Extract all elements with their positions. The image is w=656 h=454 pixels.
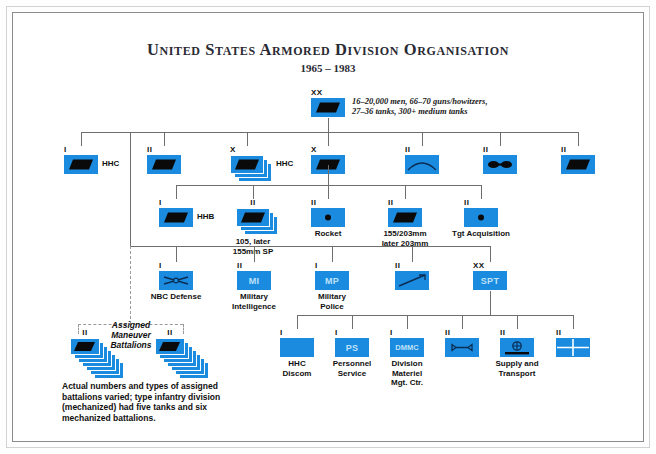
unit-under-label: Military Intelligence — [209, 292, 299, 311]
connector-br-drop-1 — [176, 246, 177, 262]
connector-dc-drop-1 — [297, 315, 298, 329]
connector-artillery-drop — [328, 165, 329, 185]
connector-left-spine — [130, 132, 131, 246]
armor-icon — [230, 155, 264, 174]
armor-icon — [236, 208, 270, 227]
engineer-icon — [405, 155, 439, 174]
connector-dc-drop-6 — [573, 315, 574, 329]
armor-icon — [147, 155, 181, 174]
connector-drop-5 — [422, 132, 423, 146]
connector-br-drop-5 — [490, 246, 491, 262]
connector-left-spine-foot — [130, 246, 176, 247]
echelon-label: II — [70, 329, 100, 337]
connector-drop-7 — [578, 132, 579, 146]
unit-inner-label: DMMC — [390, 338, 424, 357]
connector-branch-bus — [176, 246, 490, 247]
connector-br-drop-3 — [332, 246, 333, 262]
unit-side-label: HHC — [276, 159, 293, 168]
supply-transport-icon — [500, 338, 534, 357]
page-title: United States Armored Division Organisat… — [0, 40, 656, 60]
connector-art-drop-4 — [405, 185, 406, 199]
armor-icon — [388, 208, 422, 227]
unit-side-label: HHC — [102, 159, 119, 168]
connector-dc-drop-2 — [352, 315, 353, 329]
connector-main-bus — [81, 132, 578, 133]
connector-division-drop — [328, 118, 329, 132]
unit-under-label: Tgt Acquisition — [436, 229, 526, 239]
armor-icon — [155, 338, 185, 355]
connector-maneuver-dashed-spine — [130, 246, 131, 324]
connector-art-drop-1 — [176, 185, 177, 199]
wrench-icon — [445, 338, 479, 357]
connector-drop-1 — [81, 132, 82, 146]
connector-dc-drop-4 — [462, 315, 463, 329]
unit-inner-label: MI — [237, 271, 271, 290]
unit-box — [280, 338, 314, 357]
unit-inner-label: SPT — [473, 271, 507, 290]
unit-under-label: Division Materiel Mgt. Ctr. — [362, 359, 452, 388]
armor-icon — [311, 98, 345, 117]
armor-icon — [64, 155, 98, 174]
connector-drop-4 — [328, 132, 329, 146]
armor-icon — [70, 338, 100, 355]
unit-inner-label: MP — [315, 271, 349, 290]
page-subtitle: 1965 – 1983 — [0, 62, 656, 74]
connector-art-drop-2 — [253, 185, 254, 199]
nbc-icon — [159, 271, 193, 290]
aviation-icon — [483, 155, 517, 174]
signal-icon — [395, 271, 429, 290]
armor-icon — [561, 155, 595, 174]
connector-drop-2 — [164, 132, 165, 146]
echelon-label: II — [236, 199, 270, 207]
unit-side-label: HHB — [197, 212, 214, 221]
echelon-label: II — [155, 329, 185, 337]
division-note-line-1: 16–20,000 men, 66–70 guns/howitzers, — [352, 96, 488, 106]
unit-under-label: Supply and Transport — [472, 359, 562, 378]
connector-dc-drop-5 — [517, 315, 518, 329]
unit-under-label: NBC Defense — [131, 292, 221, 302]
medical-cross-icon — [556, 338, 590, 357]
chart-canvas: United States Armored Division Organisat… — [0, 0, 656, 454]
unit-under-label: Military Police — [287, 292, 377, 311]
connector-drop-3 — [247, 132, 248, 146]
connector-br-drop-2 — [254, 246, 255, 262]
division-note-line-2: 27–36 tanks, 300+ medium tanks — [352, 106, 468, 116]
connector-discom-bus — [297, 315, 573, 316]
connector-dc-drop-3 — [407, 315, 408, 329]
connector-spt-drop — [490, 291, 491, 315]
connector-art-drop-3 — [328, 185, 329, 199]
organisation-chart-page: United States Armored Division Organisat… — [0, 0, 656, 454]
artillery-dot-icon — [311, 208, 345, 227]
connector-art-drop-5 — [481, 185, 482, 199]
unit-inner-label: PS — [335, 338, 369, 357]
artillery-dot-icon — [464, 208, 498, 227]
armor-icon — [159, 208, 193, 227]
maneuver-caption: Actual numbers and types of assigned bat… — [62, 381, 252, 423]
connector-br-drop-4 — [412, 246, 413, 262]
connector-drop-6 — [500, 132, 501, 146]
